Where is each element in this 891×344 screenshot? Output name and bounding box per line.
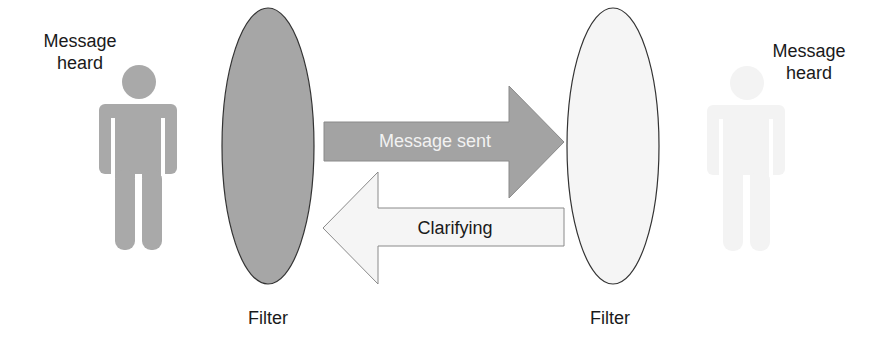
- filter-ellipse-left: [222, 8, 314, 284]
- message-heard-label-right: Message heard: [767, 40, 851, 84]
- filter-ellipse-right: [567, 8, 659, 284]
- filter-label-left: Filter: [218, 307, 318, 329]
- filter-label-right: Filter: [560, 307, 660, 329]
- diagram-canvas: [0, 0, 891, 344]
- clarifying-label: Clarifying: [380, 218, 530, 239]
- message-heard-label-left: Message heard: [28, 30, 132, 74]
- message-sent-label: Message sent: [340, 131, 530, 152]
